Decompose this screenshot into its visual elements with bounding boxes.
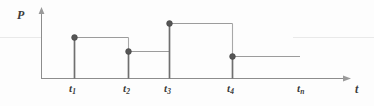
x-tick-label-t1: t1 [69,83,76,94]
x-tick-label-t3: t3 [164,83,171,94]
data-point-t4 [230,54,236,60]
x-tick-label-tn: tn [297,83,304,94]
chart-plot-area [0,0,374,106]
tick-sub-t4: 4 [230,87,234,96]
tick-sub-t2: 2 [126,87,130,96]
tick-sub-tn: n [300,87,304,96]
y-axis-label: P [17,9,24,21]
x-axis-label: t [355,83,358,95]
x-tick-label-t4: t4 [227,83,234,94]
step-function-chart: P t t1 t2 t3 t4 tn [0,0,374,106]
y-axis-arrow-icon [39,7,45,14]
x-tick-label-t2: t2 [123,83,130,94]
tick-sub-t3: 3 [167,87,171,96]
data-point-t1 [72,35,78,41]
tick-sub-t1: 1 [72,87,76,96]
data-point-t3 [167,21,173,27]
data-point-t2 [126,49,132,55]
x-axis-arrow-icon [343,75,351,81]
